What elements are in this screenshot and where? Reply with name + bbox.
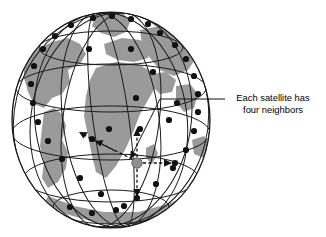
- satellite-dot[interactable]: [133, 95, 139, 101]
- satellite-dot[interactable]: [121, 203, 127, 209]
- satellite-constellation-figure: Each satellite has four neighbors: [0, 0, 326, 237]
- satellite-dot[interactable]: [150, 69, 156, 75]
- satellite-dot[interactable]: [67, 204, 73, 210]
- satellite-dot[interactable]: [195, 109, 201, 115]
- highlighted-satellite[interactable]: [132, 158, 142, 168]
- satellite-dot[interactable]: [128, 46, 134, 52]
- satellite-dot[interactable]: [77, 175, 83, 181]
- satellite-dot[interactable]: [145, 21, 151, 27]
- satellite-dot[interactable]: [183, 56, 189, 62]
- satellite-dot[interactable]: [157, 30, 163, 36]
- satellite-dot[interactable]: [128, 16, 134, 22]
- satellite-dot[interactable]: [191, 128, 197, 134]
- satellite-dot[interactable]: [28, 81, 34, 87]
- satellite-dot[interactable]: [106, 126, 112, 132]
- satellite-dot[interactable]: [172, 160, 178, 166]
- satellite-dot[interactable]: [86, 46, 92, 52]
- callout-text-line-1: Each satellite has: [236, 92, 310, 103]
- satellite-dot[interactable]: [195, 91, 201, 97]
- satellite-dot[interactable]: [174, 100, 180, 106]
- satellite-dot[interactable]: [183, 147, 189, 153]
- satellite-dot[interactable]: [172, 42, 178, 48]
- satellite-dot[interactable]: [59, 156, 65, 162]
- satellite-dot[interactable]: [40, 46, 46, 52]
- satellite-dot[interactable]: [89, 136, 95, 142]
- satellite-dot[interactable]: [45, 138, 51, 144]
- satellite-dot[interactable]: [113, 207, 119, 213]
- satellite-dot[interactable]: [90, 15, 96, 21]
- satellite-dot[interactable]: [35, 119, 41, 125]
- globe-diagram-canvas: Each satellite has four neighbors: [0, 0, 326, 237]
- satellite-dot[interactable]: [166, 117, 172, 123]
- satellite-dot[interactable]: [30, 100, 36, 106]
- satellite-dot[interactable]: [52, 33, 58, 39]
- satellite-dot[interactable]: [98, 191, 104, 197]
- satellite-dot[interactable]: [109, 13, 115, 19]
- callout-text-line-2: four neighbors: [243, 104, 303, 115]
- satellite-dot[interactable]: [153, 181, 159, 187]
- satellite-dot[interactable]: [191, 73, 197, 79]
- satellite-dot[interactable]: [31, 63, 37, 69]
- satellite-dot[interactable]: [68, 22, 74, 28]
- satellite-dot[interactable]: [89, 210, 95, 216]
